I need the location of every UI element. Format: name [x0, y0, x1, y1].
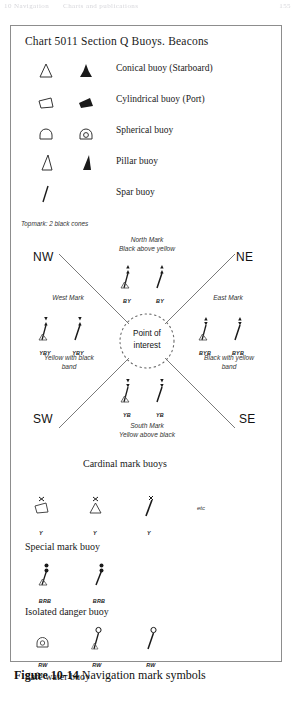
- legend-row: Pillar buoy: [11, 151, 281, 182]
- legend-label: Spherical buoy: [116, 125, 173, 135]
- west-mark-buoys: YBY YBY: [35, 314, 88, 348]
- north-mark-title-line1: North Mark: [97, 236, 197, 245]
- buoy-tag: Y: [85, 530, 105, 536]
- cylindrical-buoy-filled-icon: [73, 89, 99, 115]
- buoy-tag: YBY: [35, 350, 55, 356]
- isolated-danger-spar-buoy-icon: BRB: [89, 562, 109, 596]
- south-mark-title-line2: Yellow above black: [97, 431, 197, 440]
- figure-title: Navigation mark symbols: [79, 668, 206, 682]
- conical-buoy-outline-icon: [33, 58, 59, 84]
- isolated-danger-buoys: BRB BRB: [35, 562, 109, 596]
- buoy-tag: Y: [31, 530, 51, 536]
- special-conical-buoy-icon: Y: [85, 494, 105, 528]
- safe-water-pillar-buoy-icon: RW: [87, 626, 107, 660]
- symbol-legend: Conical buoy (Starboard) Cylindrical buo…: [11, 58, 281, 213]
- etc-label: etc: [197, 505, 205, 511]
- north-pillar-buoy-icon: BY: [117, 262, 137, 296]
- east-band-line2: band: [185, 363, 273, 372]
- figure-number: Figure 10-14: [14, 668, 79, 682]
- topmark-note: Topmark: 2 black cones: [21, 220, 88, 227]
- east-mark-buoys: BYB BYB: [195, 314, 248, 348]
- south-pillar-buoy-icon: YB: [117, 376, 137, 410]
- west-pillar-buoy-icon: YBY: [35, 314, 55, 348]
- north-mark-title-line2: Black above yellow: [97, 245, 197, 254]
- safe-water-spar-buoy-icon: RW: [141, 626, 161, 660]
- special-mark-buoys: Y Y Y etc: [31, 494, 205, 528]
- scanned-page: 10 Navigation Charts and publications 15…: [0, 0, 293, 704]
- point-of-interest-line1: Point of: [133, 328, 161, 340]
- legend-label: Conical buoy (Starboard): [116, 63, 213, 73]
- pillar-buoy-outline-icon: [33, 151, 59, 177]
- buoy-tag: Y: [139, 530, 159, 536]
- west-spar-buoy-icon: YBY: [68, 314, 88, 348]
- buoy-tag: YB: [150, 412, 170, 418]
- buoy-tag: BRB: [89, 598, 109, 604]
- safe-water-spherical-buoy-icon: RW: [33, 626, 53, 660]
- figure-caption: Figure 10-14 Navigation mark symbols: [10, 668, 282, 683]
- point-of-interest-line2: interest: [134, 340, 161, 352]
- caption-cardinal-mark-buoys: Cardinal mark buoys: [83, 458, 167, 469]
- quadrant-label-nw: NW: [33, 250, 54, 264]
- south-mark-buoys: YB YB: [117, 376, 170, 410]
- north-mark-title: North Mark Black above yellow: [97, 236, 197, 254]
- quadrant-label-se: SE: [239, 412, 256, 426]
- west-band-line2: band: [27, 363, 111, 372]
- safe-water-buoys: RW RW RW: [33, 626, 161, 660]
- chart-title: Chart 5011 Section Q Buoys. Beacons: [25, 35, 209, 47]
- east-mark-title: East Mark: [193, 294, 263, 303]
- buoy-tag: BYB: [228, 350, 248, 356]
- buoy-tag: BY: [117, 298, 137, 304]
- point-of-interest: Point of interest: [109, 311, 185, 369]
- running-header-page-number: 155: [279, 2, 293, 10]
- east-spar-buoy-icon: BYB: [228, 314, 248, 348]
- legend-label: Spar buoy: [116, 187, 155, 197]
- running-header-mid: Charts and publications: [63, 2, 138, 10]
- west-mark-title: West Mark: [33, 294, 103, 303]
- east-mark-band-note: Black with yellow band: [185, 354, 273, 372]
- spherical-buoy-outline-icon: [33, 120, 59, 146]
- spherical-buoy-filled-icon: [73, 120, 99, 146]
- west-mark-band-note: Yellow with black band: [27, 354, 111, 372]
- legend-row: Spherical buoy: [11, 120, 281, 151]
- buoy-tag: BY: [150, 298, 170, 304]
- conical-buoy-filled-icon: [73, 58, 99, 84]
- caption-special-mark-buoy: Special mark buoy: [25, 541, 100, 552]
- special-spar-buoy-icon: Y: [139, 494, 159, 528]
- legend-label: Cylindrical buoy (Port): [116, 94, 205, 104]
- north-spar-buoy-icon: BY: [150, 262, 170, 296]
- legend-row: Cylindrical buoy (Port): [11, 89, 281, 120]
- buoy-tag: BYB: [195, 350, 215, 356]
- north-mark-buoys: BY BY: [117, 262, 170, 296]
- buoy-tag: YB: [117, 412, 137, 418]
- cardinal-diagram: NW NE SW SE Point of interest North Mark…: [11, 232, 283, 447]
- quadrant-label-ne: NE: [236, 250, 253, 264]
- caption-isolated-danger-buoy: Isolated danger buoy: [25, 606, 109, 617]
- south-mark-title: South Mark Yellow above black: [97, 422, 197, 440]
- east-pillar-buoy-icon: BYB: [195, 314, 215, 348]
- south-spar-buoy-icon: YB: [150, 376, 170, 410]
- legend-row: Spar buoy: [11, 182, 281, 213]
- isolated-danger-pillar-buoy-icon: BRB: [35, 562, 55, 596]
- buoy-tag: YBY: [68, 350, 88, 356]
- pillar-buoy-filled-icon: [73, 151, 99, 177]
- spar-buoy-outline-icon: [33, 182, 59, 208]
- figure-box: Chart 5011 Section Q Buoys. Beacons Coni…: [10, 25, 282, 662]
- legend-label: Pillar buoy: [116, 156, 158, 166]
- quadrant-label-sw: SW: [33, 412, 53, 426]
- legend-row: Conical buoy (Starboard): [11, 58, 281, 89]
- buoy-tag: BRB: [35, 598, 55, 604]
- south-mark-title-line1: South Mark: [97, 422, 197, 431]
- cylindrical-buoy-outline-icon: [33, 89, 59, 115]
- special-cylindrical-buoy-icon: Y: [31, 494, 51, 528]
- running-header-left: 10 Navigation: [4, 2, 49, 10]
- running-header: 10 Navigation Charts and publications 15…: [0, 0, 293, 11]
